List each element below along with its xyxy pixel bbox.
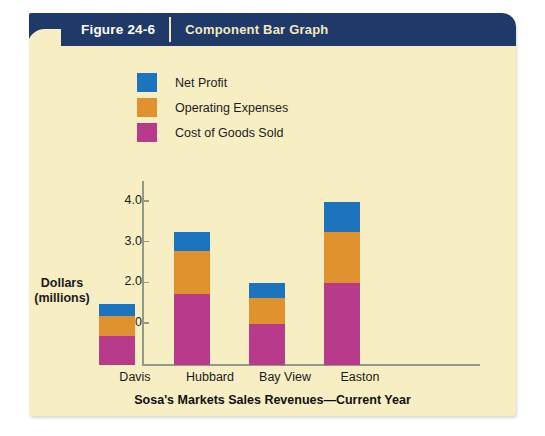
category-label: Easton: [320, 370, 400, 384]
bar-segment: [174, 294, 210, 365]
bar-stack: [174, 232, 210, 365]
bar-segment: [324, 232, 360, 283]
y-axis-tick: [142, 322, 149, 324]
bar-segment: [99, 304, 135, 316]
category-label: Hubbard: [170, 370, 250, 384]
plot-area: Dollars (millions) 1.02.03.04.0 DavisHub…: [29, 13, 516, 416]
bar-stack: [249, 283, 285, 365]
y-axis-tick-label: 2.0: [106, 274, 142, 288]
y-axis-line: [142, 181, 144, 365]
bar-segment: [249, 283, 285, 297]
category-label: Bay View: [245, 370, 325, 384]
bar-segment: [324, 202, 360, 233]
bar-segment: [324, 283, 360, 365]
bar-stack: [99, 304, 135, 365]
y-axis-tick: [142, 200, 149, 202]
bar-segment: [99, 316, 135, 336]
bar-segment: [174, 232, 210, 250]
bar-segment: [249, 298, 285, 325]
y-axis-tick-label: 4.0: [106, 193, 142, 207]
chart-caption: Sosa's Markets Sales Revenues—Current Ye…: [29, 393, 516, 407]
bar-segment: [249, 324, 285, 365]
y-axis-label-line1: Dollars: [41, 276, 83, 290]
category-label: Davis: [95, 370, 175, 384]
bar-segment: [99, 336, 135, 365]
y-axis-tick: [142, 282, 149, 284]
bar-segment: [174, 251, 210, 294]
bar-stack: [324, 202, 360, 365]
y-axis-tick: [142, 241, 149, 243]
y-axis-label-line2: (millions): [34, 291, 90, 305]
figure-card: Figure 24-6 Component Bar Graph Net Prof…: [29, 13, 516, 416]
y-axis-label: Dollars (millions): [29, 276, 95, 306]
y-axis-tick-label: 3.0: [106, 234, 142, 248]
